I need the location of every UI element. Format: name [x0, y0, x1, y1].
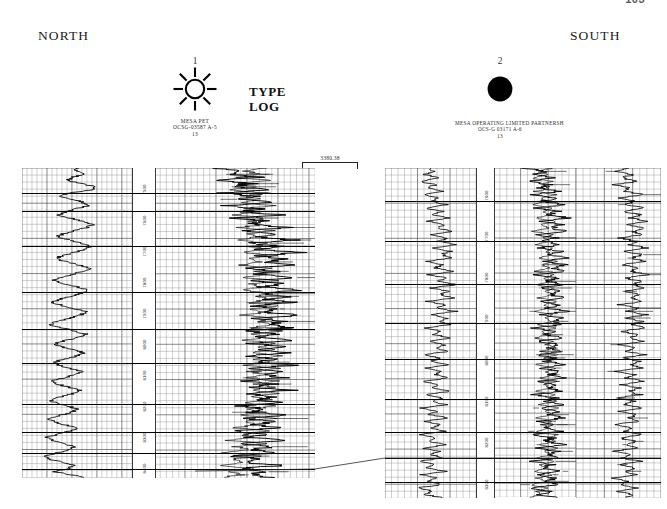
correlation-marker-line — [22, 292, 315, 293]
depth-tick-label: 7800 — [477, 275, 494, 280]
depth-tick-label: 8100 — [133, 373, 155, 378]
correlation-marker-line — [385, 432, 661, 433]
well-label-block-2: MESA OPERATING LIMITED PARTNERSH OCS-G 0… — [455, 120, 545, 139]
well-log-panel-2: 76007700780079008000810082008300 — [385, 168, 661, 498]
correlation-marker-line — [385, 458, 661, 459]
depth-tick-label: 7700 — [133, 249, 155, 254]
horizontal-scale-bar: 3380.38 — [302, 155, 358, 169]
correlation-marker-line — [22, 329, 315, 330]
filled-circle-symbol-icon — [455, 68, 545, 110]
page-title-line-2: LOG — [249, 99, 286, 114]
depth-tick-label: 7900 — [477, 317, 494, 322]
depth-tick-label: 7800 — [133, 280, 155, 285]
depth-column: 76007700780079008000810082008300 — [476, 168, 495, 498]
well-block-2: 13 — [455, 133, 545, 139]
log-track-sp-gamma-track — [385, 168, 476, 498]
correlation-marker-line — [22, 193, 315, 194]
page-title-line-1: TYPE — [249, 84, 286, 99]
correlation-marker-line — [22, 404, 315, 405]
correlation-marker-line — [22, 432, 315, 433]
depth-tick-label: 7500 — [133, 187, 155, 192]
correlation-marker-line — [22, 211, 315, 212]
well-number-1: 1 — [150, 56, 240, 66]
correlation-marker-line — [22, 453, 315, 454]
well-block-1: 13 — [150, 131, 240, 137]
page-number: 103 — [625, 0, 645, 5]
depth-tick-label: 8300 — [133, 435, 155, 440]
document-page: 103 NORTH SOUTH TYPE LOG 1 — [0, 0, 667, 509]
direction-label-south: SOUTH — [570, 28, 621, 44]
depth-tick-label: 7600 — [133, 218, 155, 223]
correlation-marker-line — [22, 469, 315, 470]
well-label-block-1: MESA PET OCSG-03587 A-5 13 — [150, 118, 240, 137]
depth-tick-label: 8200 — [477, 440, 494, 445]
depth-tick-label: 7900 — [133, 311, 155, 316]
direction-label-north: NORTH — [38, 28, 89, 44]
horizontal-scale-label: 3380.38 — [302, 155, 358, 161]
sun-symbol-icon — [150, 68, 240, 110]
well-log-panel-1: 7500760077007800790080008100820083008400 — [22, 168, 315, 478]
correlation-marker-line — [22, 363, 315, 364]
depth-tick-label: 8000 — [133, 342, 155, 347]
log-track-resistivity-track — [493, 168, 576, 498]
depth-tick-label: 7600 — [477, 193, 494, 198]
correlation-marker-line — [385, 284, 661, 285]
correlation-marker-line — [385, 359, 661, 360]
correlation-marker-line — [22, 246, 315, 247]
correlation-marker-line — [385, 399, 661, 400]
log-track-porosity-track — [576, 168, 661, 498]
well-header-2: 2 MESA OPERATING LIMITED PARTNERSH OCS-G… — [455, 56, 545, 139]
correlation-marker-line — [385, 482, 661, 483]
correlation-marker-line — [385, 201, 661, 202]
depth-tick-label: 7700 — [477, 234, 494, 239]
well-number-2: 2 — [455, 56, 545, 66]
correlation-marker-line — [385, 241, 661, 242]
well-header-1: 1 MESA PET OCSG-03587 A-5 13 — [150, 56, 240, 137]
page-title: TYPE LOG — [249, 84, 286, 114]
correlation-marker-line — [385, 323, 661, 324]
